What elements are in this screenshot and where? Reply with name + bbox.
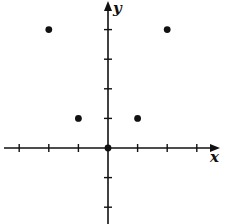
data-point (75, 115, 82, 122)
axes (4, 1, 220, 224)
x-axis-label: x (209, 148, 220, 166)
data-point (134, 115, 141, 122)
y-axis-label: y (112, 0, 123, 17)
data-point (105, 145, 112, 152)
y-axis-arrow-icon (104, 1, 112, 11)
data-point (164, 26, 171, 33)
data-point (45, 26, 52, 33)
coordinate-plane: x y (0, 0, 228, 224)
